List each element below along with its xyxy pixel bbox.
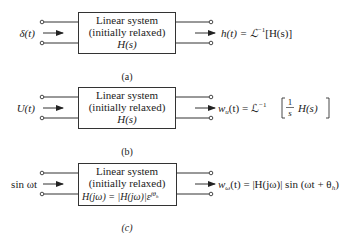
- caption-c: (c): [121, 222, 133, 233]
- input-terminal-top: [40, 171, 44, 175]
- input-terminal-top: [40, 95, 44, 99]
- right-bracket: [326, 98, 329, 118]
- output-label: wω(t) = |H(jω)| sin (ωt + θh): [218, 178, 339, 192]
- input-terminal-top: [40, 20, 44, 24]
- panel-a: δ(t) Linear system (initially relaxed) H…: [20, 13, 293, 84]
- left-bracket: [282, 98, 285, 118]
- box-line-3: H(s): [116, 113, 137, 126]
- input-terminal-bottom: [40, 41, 44, 45]
- fraction-denominator: s: [288, 108, 292, 118]
- box-line-1: Linear system: [96, 14, 158, 26]
- input-label: U(t): [17, 102, 36, 115]
- caption-a: (a): [121, 71, 132, 83]
- box-line-2: (initially relaxed): [89, 177, 166, 190]
- output-terminal-bottom: [209, 41, 213, 45]
- panel-b: U(t) Linear system (initially relaxed) H…: [17, 88, 329, 159]
- box-line-1: Linear system: [96, 89, 158, 101]
- output-terminal-top: [209, 20, 213, 24]
- box-line-1: Linear system: [96, 165, 158, 177]
- box-line-3: H(jω) = |H(jω)|εjθh: [81, 190, 159, 203]
- input-terminal-bottom: [40, 192, 44, 196]
- output-terminal-bottom: [209, 116, 213, 120]
- output-terminal-top: [209, 95, 213, 99]
- input-terminal-bottom: [40, 116, 44, 120]
- panel-c: sin ωt Linear system (initially relaxed)…: [11, 164, 339, 234]
- svg-text:wu(t) = ℒ−1: wu(t) = ℒ−1: [218, 101, 267, 116]
- caption-b: (b): [121, 146, 133, 158]
- box-line-3: H(s): [116, 38, 137, 51]
- output-terminal-top: [209, 171, 213, 175]
- block-diagram-figure: δ(t) Linear system (initially relaxed) H…: [0, 0, 361, 233]
- input-label: sin ωt: [11, 178, 37, 190]
- output-terminal-bottom: [209, 192, 213, 196]
- output-label: wu(t) = ℒ−1 1 s H(s): [218, 97, 329, 118]
- fraction-numerator: 1: [288, 97, 293, 107]
- transfer-function: H(s): [297, 102, 318, 115]
- output-label: h(t) = ℒ−1[H(s)]: [221, 26, 292, 40]
- input-label: δ(t): [20, 27, 36, 40]
